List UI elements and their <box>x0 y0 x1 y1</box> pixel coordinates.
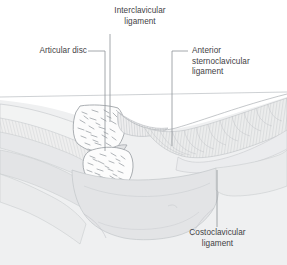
label-anterior-line1: Anterior <box>192 46 284 57</box>
label-costoclavicular-line2: ligament <box>160 239 275 250</box>
label-articular-disc-line1: Articular disc <box>5 46 87 57</box>
label-costoclavicular-ligament: Costoclavicular ligament <box>160 228 275 249</box>
anatomical-figure: Interclavicular ligament Articular disc … <box>0 0 287 265</box>
label-anterior-line3: ligament <box>192 67 284 78</box>
label-anterior-line2: sternoclavicular <box>192 57 284 68</box>
label-interclavicular-line1: Interclavicular <box>90 6 190 17</box>
label-interclavicular-ligament: Interclavicular ligament <box>90 6 190 27</box>
sternoclavicular-joint-illustration <box>0 0 287 265</box>
label-articular-disc: Articular disc <box>5 46 87 57</box>
label-interclavicular-line2: ligament <box>90 17 190 28</box>
label-anterior-sternoclavicular-ligament: Anterior sternoclavicular ligament <box>192 46 284 78</box>
label-costoclavicular-line1: Costoclavicular <box>160 228 275 239</box>
